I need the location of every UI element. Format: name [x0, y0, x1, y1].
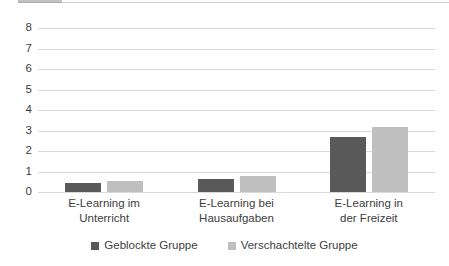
x-axis-category-labels: E-Learning imUnterrichtE-Learning beiHau…	[38, 196, 435, 230]
top-frame-mark	[18, 0, 62, 3]
gridline-7	[38, 49, 435, 50]
bar	[198, 179, 234, 192]
x-axis-label-line: E-Learning bei	[170, 196, 302, 211]
legend-label: Geblockte Gruppe	[104, 240, 197, 252]
legend-label: Verschachtelte Gruppe	[241, 240, 358, 252]
bar	[65, 183, 101, 192]
x-axis-label: E-Learning inder Freizeit	[303, 196, 435, 226]
bar	[330, 137, 366, 192]
legend-item[interactable]: Verschachtelte Gruppe	[228, 240, 358, 252]
legend-swatch-icon	[228, 242, 236, 250]
y-axis: 876543210	[0, 28, 32, 192]
y-tick-label-5: 5	[6, 84, 32, 96]
y-tick-label-0: 0	[6, 186, 32, 198]
x-axis-label-line: der Freizeit	[303, 211, 435, 226]
gridline-8	[38, 28, 435, 29]
y-tick-label-3: 3	[6, 125, 32, 137]
y-tick-label-6: 6	[6, 63, 32, 75]
y-tick-label-1: 1	[6, 166, 32, 178]
bar	[372, 127, 408, 192]
gridline-6	[38, 69, 435, 70]
x-axis-label-line: Unterricht	[38, 211, 170, 226]
y-tick-label-8: 8	[6, 22, 32, 34]
legend-swatch-icon	[91, 242, 99, 250]
y-tick-label-4: 4	[6, 104, 32, 116]
bar-chart: 876543210 E-Learning imUnterrichtE-Learn…	[0, 0, 449, 266]
gridline-0	[38, 192, 435, 193]
x-axis-label-line: E-Learning im	[38, 196, 170, 211]
gridline-4	[38, 110, 435, 111]
x-axis-label: E-Learning imUnterricht	[38, 196, 170, 226]
gridline-5	[38, 90, 435, 91]
bar	[240, 176, 276, 192]
bar	[107, 181, 143, 192]
top-frame-rule	[18, 2, 449, 3]
y-tick-label-7: 7	[6, 43, 32, 55]
legend: Geblockte GruppeVerschachtelte Gruppe	[0, 240, 449, 252]
plot-area	[38, 28, 435, 192]
x-axis-label-line: Hausaufgaben	[170, 211, 302, 226]
y-tick-label-2: 2	[6, 145, 32, 157]
x-axis-label: E-Learning beiHausaufgaben	[170, 196, 302, 226]
legend-item[interactable]: Geblockte Gruppe	[91, 240, 197, 252]
x-axis-label-line: E-Learning in	[303, 196, 435, 211]
